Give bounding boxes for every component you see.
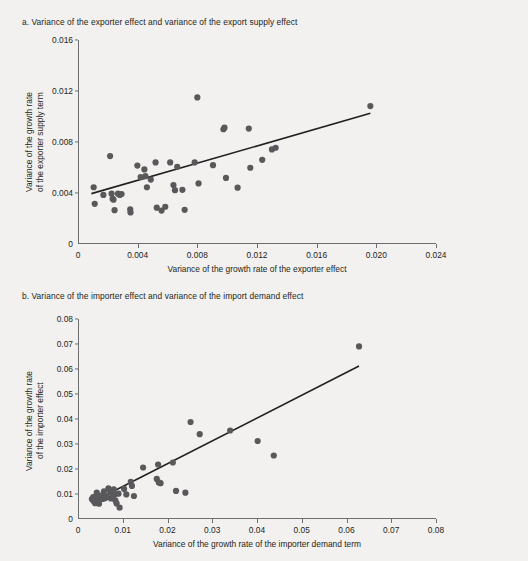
panel-b-x-tick-mark: [436, 519, 437, 523]
panel-a-data-point: [142, 173, 148, 179]
panel-a-data-point: [195, 180, 201, 186]
panel-a-scatter-canvas: [78, 40, 436, 244]
panel-a-y-tick-label: 0.012: [52, 86, 73, 96]
panel-b-x-tick-mark: [123, 519, 124, 523]
panel-b-y-tick-mark: [75, 493, 79, 494]
panel-a-data-point: [192, 159, 198, 165]
panel-b-y-tick-mark: [75, 418, 79, 419]
panel-b-x-tick-label: 0.04: [249, 525, 265, 535]
panel-a-data-point: [107, 153, 113, 159]
panel-a-x-tick-mark: [376, 244, 377, 248]
panel-b-scatter-canvas: [78, 319, 436, 519]
panel-a-y-tick-mark: [75, 90, 79, 91]
panel-b-y-tick-label: 0.06: [57, 364, 73, 374]
panel-a-data-point: [235, 185, 241, 191]
panel-a-data-point: [273, 145, 279, 151]
panel-a-data-point: [194, 94, 200, 100]
panel-a-data-point: [210, 162, 216, 168]
panel-a-data-point: [182, 207, 188, 213]
panel-a-data-point: [134, 162, 140, 168]
panel-a-y-tick-mark: [75, 141, 79, 142]
panel-a-x-tick-mark: [197, 244, 198, 248]
panel-a-x-tick-mark: [317, 244, 318, 248]
panel-a-data-point: [167, 159, 173, 165]
panel-b-y-tick-mark: [75, 443, 79, 444]
panel-a-x-axis-label: Variance of the growth rate of the expor…: [78, 264, 436, 274]
panel-a-x-tick-label: 0.008: [187, 250, 208, 260]
panel-b-y-tick-mark: [75, 343, 79, 344]
panel-b-data-point: [129, 483, 135, 489]
panel-b-data-point: [170, 459, 176, 465]
panel-a-data-point: [246, 126, 252, 132]
panel-b-plot-area: Variance of the growth rate of the impor…: [78, 319, 436, 519]
panel-a-data-point: [179, 187, 185, 193]
panel-b-data-point: [115, 491, 121, 497]
panel-a-y-tick-mark: [75, 192, 79, 193]
panel-b-y-tick-label: 0.05: [57, 389, 73, 399]
panel-a-y-tick-label: 0.008: [52, 137, 73, 147]
panel-a-x-tick-label: 0.020: [366, 250, 387, 260]
panel-a-data-point: [162, 204, 168, 210]
panel-b-x-tick-label: 0: [76, 525, 81, 535]
panel-b-x-tick-label: 0.01: [115, 525, 131, 535]
panel-a-y-tick-label: 0.004: [52, 188, 73, 198]
panel-a-data-point: [100, 192, 106, 198]
panel-a-x-tick-mark: [257, 244, 258, 248]
panel-b-data-point: [227, 427, 233, 433]
panel-b-x-tick-label: 0.02: [159, 525, 175, 535]
panel-b-data-point: [255, 438, 261, 444]
panel-a-data-point: [92, 201, 98, 207]
panel-b-y-tick-label: 0.01: [57, 489, 73, 499]
panel-b-y-tick-label: 0.04: [57, 414, 73, 424]
panel-a-data-point: [148, 177, 154, 183]
panel-b-x-tick-mark: [347, 519, 348, 523]
panel-b-data-point: [121, 486, 127, 492]
panel-a-x-tick-label: 0.012: [247, 250, 268, 260]
panel-b-y-tick-mark: [75, 318, 79, 319]
panel-b-data-point: [131, 493, 137, 499]
panel-a-data-point: [111, 207, 117, 213]
panel-a-x-tick-label: 0.016: [306, 250, 327, 260]
panel-b-y-tick-label: 0: [68, 514, 73, 524]
panel-b-y-tick-mark: [75, 368, 79, 369]
panel-b-data-point: [155, 461, 161, 467]
panel-b-y-tick-label: 0.02: [57, 464, 73, 474]
panel-a-plot-area: Variance of the growth rate of the expor…: [78, 40, 436, 244]
panel-b-x-tick-label: 0.06: [338, 525, 354, 535]
panel-b-data-point: [187, 419, 193, 425]
panel-a-data-point: [108, 191, 114, 197]
panel-b-data-point: [140, 464, 146, 470]
panel-a-data-point: [367, 103, 373, 109]
panel-b-data-point: [173, 488, 179, 494]
panel-a-data-point: [174, 164, 180, 170]
panel-b-x-tick-mark: [212, 519, 213, 523]
panel-b-data-point: [123, 491, 129, 497]
panel-a-trend-line: [91, 113, 370, 193]
panel-b-x-axis-label: Variance of the growth rate of the impor…: [78, 539, 436, 549]
panel-a-title: a. Variance of the exporter effect and v…: [22, 17, 297, 27]
panel-b-data-point: [157, 480, 163, 486]
panel-b-y-tick-mark: [75, 468, 79, 469]
panel-a-data-point: [141, 166, 147, 172]
panel-a-x-tick-label: 0: [76, 250, 81, 260]
chart-panel-a: a. Variance of the exporter effect and v…: [0, 0, 528, 281]
panel-b-x-tick-label: 0.03: [204, 525, 220, 535]
panel-b-data-point: [197, 431, 203, 437]
panel-a-data-point: [152, 159, 158, 165]
panel-b-x-tick-label: 0.08: [428, 525, 444, 535]
panel-a-data-point: [247, 165, 253, 171]
panel-a-data-point: [91, 184, 97, 190]
panel-b-y-axis-label: Variance of the growth rate of the impor…: [24, 336, 45, 506]
panel-a-x-tick-label: 0.024: [426, 250, 447, 260]
panel-b-data-point: [117, 505, 123, 511]
panel-b-y-tick-label: 0.03: [57, 439, 73, 449]
panel-b-y-tick-label: 0.07: [57, 339, 73, 349]
chart-panel-b: b. Variance of the importer effect and v…: [0, 281, 528, 561]
panel-b-x-tick-mark: [302, 519, 303, 523]
panel-a-x-tick-mark: [436, 244, 437, 248]
panel-a-data-point: [172, 187, 178, 193]
panel-a-data-point: [118, 191, 124, 197]
panel-b-data-point: [182, 490, 188, 496]
panel-b-y-tick-label: 0.08: [57, 314, 73, 324]
panel-a-data-point: [223, 175, 229, 181]
